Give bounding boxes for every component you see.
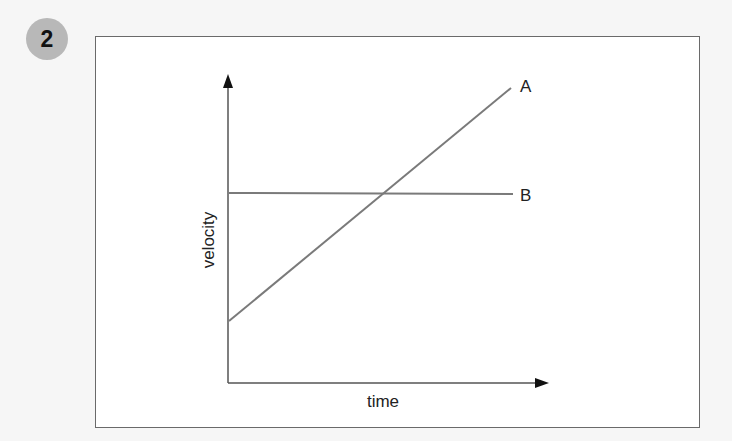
- x-axis-label: time: [367, 392, 399, 411]
- x-axis: [228, 378, 549, 388]
- line-b: [229, 193, 513, 194]
- x-axis-arrow-icon: [535, 378, 549, 388]
- y-axis: [223, 74, 233, 383]
- y-axis-arrow-icon: [223, 74, 233, 88]
- y-axis-label: velocity: [199, 211, 218, 268]
- line-a: [229, 88, 511, 321]
- velocity-time-graph: A B time velocity: [0, 0, 732, 441]
- line-b-label: B: [520, 186, 531, 205]
- line-a-label: A: [520, 77, 532, 96]
